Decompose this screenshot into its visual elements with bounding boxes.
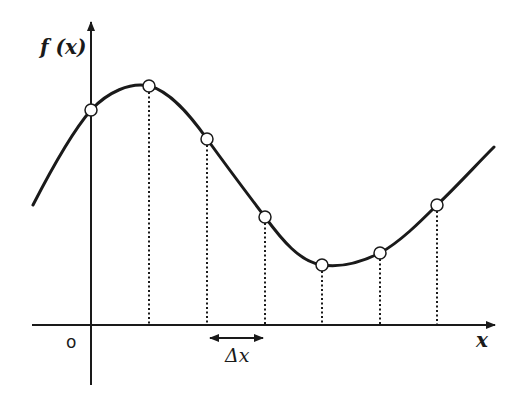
sample-point [143, 80, 155, 92]
sample-point [374, 247, 386, 259]
y-axis-label: f (x) [38, 35, 86, 59]
sample-point [431, 199, 443, 211]
diagram-canvas: f (x) x o Δx [0, 0, 524, 403]
axes [32, 22, 495, 385]
sample-point [201, 133, 213, 145]
drop-lines [149, 92, 437, 325]
sample-point [259, 211, 271, 223]
delta-x-label: Δx [224, 344, 250, 366]
origin-label: o [66, 332, 76, 352]
function-curve [33, 85, 494, 266]
sample-point [316, 259, 328, 271]
x-axis-label: x [475, 328, 489, 352]
sample-point [85, 104, 97, 116]
